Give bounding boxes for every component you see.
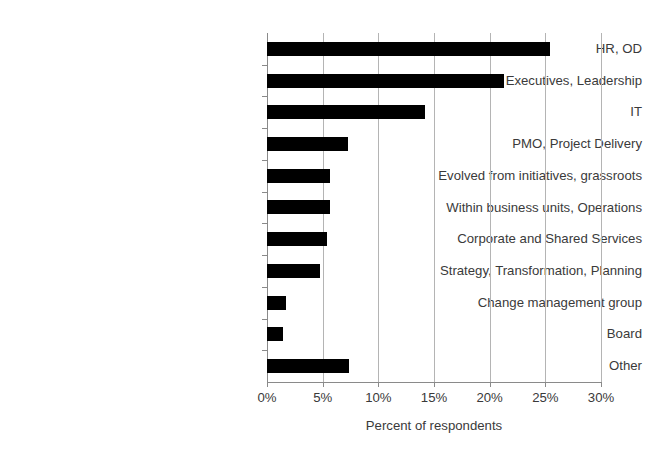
bar-row — [267, 255, 601, 287]
bar-row — [267, 128, 601, 160]
x-tick-label: 30% — [571, 390, 631, 406]
bar-row — [267, 287, 601, 319]
plot-area — [267, 33, 601, 382]
bar-chart: HR, ODExecutives, LeadershipITPMO, Proje… — [0, 0, 651, 455]
bar-row — [267, 192, 601, 224]
x-tick-mark — [267, 382, 268, 387]
x-tick-mark — [545, 382, 546, 387]
bar-row — [267, 319, 601, 351]
x-tick-label: 20% — [460, 390, 520, 406]
bar-row — [267, 350, 601, 382]
bar-row — [267, 33, 601, 65]
x-tick-mark — [378, 382, 379, 387]
bar-row — [267, 96, 601, 128]
bar — [267, 264, 320, 278]
bar — [267, 105, 425, 119]
bar — [267, 327, 283, 341]
x-tick-label: 25% — [515, 390, 575, 406]
x-tick-label: 0% — [237, 390, 297, 406]
bar — [267, 232, 327, 246]
x-tick-mark — [490, 382, 491, 387]
bar — [267, 137, 348, 151]
x-tick-mark — [601, 382, 602, 387]
x-tick-label: 10% — [348, 390, 408, 406]
bar-row — [267, 160, 601, 192]
bar — [267, 42, 550, 56]
bar-row — [267, 223, 601, 255]
gridline-30pct — [601, 33, 602, 382]
bar — [267, 200, 330, 214]
bar — [267, 296, 286, 310]
bar-row — [267, 65, 601, 97]
x-tick-mark — [323, 382, 324, 387]
x-axis-title: Percent of respondents — [267, 418, 601, 433]
bar — [267, 359, 349, 373]
bar — [267, 74, 504, 88]
x-tick-label: 15% — [404, 390, 464, 406]
bar — [267, 169, 330, 183]
x-tick-mark — [434, 382, 435, 387]
x-tick-label: 5% — [293, 390, 353, 406]
